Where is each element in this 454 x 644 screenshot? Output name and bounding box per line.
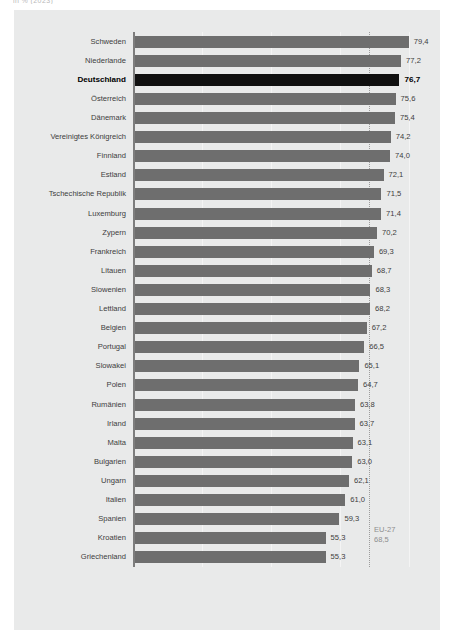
bar-value-label: 65,1 [364,359,379,372]
bar-value-label: 77,2 [406,54,421,67]
bar-row[interactable]: Slowenien68,3 [133,284,426,296]
bar-row[interactable]: Malta63,1 [133,437,426,449]
bar-value-label: 70,2 [382,226,397,239]
bar-row[interactable]: Spanien59,3 [133,513,426,525]
bar[interactable] [135,112,395,124]
bar-category-label: Deutschland [77,73,126,86]
bar[interactable] [135,475,349,487]
bar-value-label: 68,2 [375,302,390,315]
bar[interactable] [135,532,326,544]
bar[interactable] [135,494,345,506]
bar-category-label: Griechenland [81,550,126,563]
bar-category-label: Slowakei [96,359,126,372]
bar[interactable] [135,513,339,525]
bar-category-label: Tschechische Republik [49,187,126,200]
bar-value-label: 76,7 [404,73,420,86]
bar[interactable] [135,399,355,411]
bar-row[interactable]: Dänemark75,4 [133,112,426,124]
bar-value-label: 67,2 [372,321,387,334]
bar-category-label: Schweden [91,35,126,48]
bar-value-label: 55,3 [331,550,346,563]
bar[interactable] [135,265,372,277]
bar[interactable] [135,456,352,468]
bar-row[interactable]: Rumänien63,8 [133,399,426,411]
bar[interactable] [135,36,409,48]
bar-value-label: 62,1 [354,474,369,487]
bar-row[interactable]: Lettland68,2 [133,303,426,315]
bar-category-label: Bulgarien [94,455,126,468]
bar[interactable] [135,150,390,162]
bar-row[interactable]: Frankreich69,3 [133,246,426,258]
bar-category-label: Frankreich [90,245,126,258]
bar-row[interactable]: Luxemburg71,4 [133,208,426,220]
bar[interactable] [135,437,353,449]
bar-row[interactable]: Irland63,7 [133,418,426,430]
bar-value-label: 79,4 [414,35,429,48]
bar[interactable] [135,208,381,220]
bar-row[interactable]: Litauen68,7 [133,265,426,277]
bar-category-label: Litauen [101,264,126,277]
bar[interactable] [135,55,401,67]
bar-row[interactable]: Niederlande77,2 [133,55,426,67]
bar-value-label: 59,3 [344,512,359,525]
bar[interactable] [135,341,364,353]
bar-row[interactable]: Finnland74,0 [133,150,426,162]
bar-row[interactable]: Belgien67,2 [133,322,426,334]
bar-value-label: 72,1 [389,168,404,181]
bar-row[interactable]: Griechenland55,3 [133,551,426,563]
bar-row[interactable]: Slowakei65,1 [133,360,426,372]
bar-category-label: Italien [106,493,126,506]
bar[interactable] [135,284,370,296]
bar-value-label: 68,7 [377,264,392,277]
bar-category-label: Kroatien [98,531,126,544]
bar-row[interactable]: Zypern70,2 [133,227,426,239]
bar[interactable] [135,418,355,430]
bar-category-label: Vereinigtes Königreich [50,130,126,143]
bar-row[interactable]: Polen64,7 [133,379,426,391]
bar-category-label: Belgien [101,321,126,334]
bar-category-label: Luxemburg [88,207,126,220]
bar[interactable] [135,303,370,315]
bar[interactable] [135,227,377,239]
bar-value-label: 69,3 [379,245,394,258]
bar[interactable] [135,188,381,200]
bar-row[interactable]: Vereinigtes Königreich74,2 [133,131,426,143]
bar-value-label: 75,6 [401,92,416,105]
chart-card: EU-27 68,5 Schweden79,4Niederlande77,2De… [14,10,440,630]
bar[interactable] [135,379,358,391]
bar-value-label: 63,0 [357,455,372,468]
bar[interactable] [135,131,391,143]
bar-row[interactable]: Portugal66,5 [133,341,426,353]
top-caption: in % (2023) [13,0,53,4]
bar[interactable] [135,169,384,181]
bar[interactable] [135,360,359,372]
bar-value-label: 61,0 [350,493,365,506]
bar-chart-plot-area: EU-27 68,5 Schweden79,4Niederlande77,2De… [133,32,426,567]
bar-row[interactable]: Bulgarien63,0 [133,456,426,468]
bar-row[interactable]: Italien61,0 [133,494,426,506]
bar-value-label: 66,5 [369,340,384,353]
bar-category-label: Ungarn [101,474,126,487]
bar-category-label: Lettland [99,302,126,315]
bar-row[interactable]: Deutschland76,7 [133,74,426,86]
bar-row[interactable]: Estland72,1 [133,169,426,181]
bar[interactable] [135,322,367,334]
bar-value-label: 63,7 [360,417,375,430]
bar[interactable] [135,93,396,105]
bar-row[interactable]: Ungarn62,1 [133,475,426,487]
bar-row[interactable]: Österreich75,6 [133,93,426,105]
bar-row[interactable]: Schweden79,4 [133,36,426,48]
bar-category-label: Österreich [91,92,126,105]
bar-category-label: Polen [107,378,126,391]
bar-category-label: Spanien [98,512,126,525]
bar-value-label: 71,5 [386,187,401,200]
bar-category-label: Slowenien [91,283,126,296]
bar[interactable] [135,551,326,563]
bar-category-label: Dänemark [91,111,126,124]
bar-value-label: 75,4 [400,111,415,124]
bar-value-label: 64,7 [363,378,378,391]
bar-row[interactable]: Tschechische Republik71,5 [133,188,426,200]
bar[interactable] [135,74,399,86]
bar[interactable] [135,246,374,258]
bar-row[interactable]: Kroatien55,3 [133,532,426,544]
